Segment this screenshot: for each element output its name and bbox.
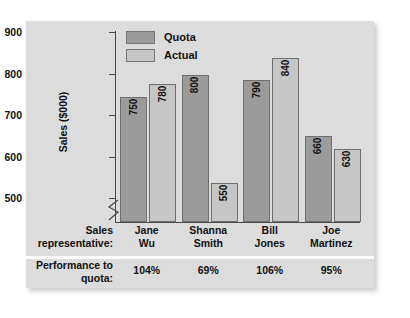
name-first-1: Shanna — [178, 224, 240, 237]
table-cell-percentage-2: 106% — [239, 259, 301, 286]
plot-area: 900 800 700 600 500 Sales ($000) Quota A… — [26, 21, 374, 221]
bar-value-actual-joe-martinez: 630 — [342, 151, 352, 168]
bar-quota-shanna-smith: 800 — [182, 75, 209, 222]
bar-actual-shanna-smith: 550 — [211, 183, 238, 222]
y-tick-label-900: 900 — [0, 27, 22, 38]
bar-value-quota-jane-wu: 750 — [129, 99, 139, 116]
bar-group-bill-jones: 790 840 — [239, 21, 301, 222]
bar-quota-joe-martinez: 660 — [305, 136, 332, 222]
name-first-3: Joe — [301, 224, 363, 237]
table-cell-name-1: Shanna Smith — [178, 224, 240, 256]
bar-value-actual-bill-jones: 840 — [281, 60, 291, 77]
bar-value-quota-joe-martinez: 660 — [313, 138, 323, 155]
table-cell-percentage-3: 95% — [301, 259, 363, 286]
data-table: Sales representative: Jane Wu Shanna Smi… — [26, 224, 374, 288]
bar-value-actual-shanna-smith: 550 — [219, 185, 229, 202]
table-cell-name-0: Jane Wu — [116, 224, 178, 256]
name-last-0: Wu — [116, 237, 178, 250]
name-last-3: Martinez — [301, 237, 363, 250]
y-axis-title: Sales ($000) — [57, 67, 69, 177]
name-last-2: Jones — [239, 237, 301, 250]
bar-actual-joe-martinez: 630 — [334, 149, 361, 222]
bar-actual-jane-wu: 780 — [149, 84, 176, 222]
row-header-pct-line1: Performance to — [26, 259, 113, 272]
y-tick-mark-700 — [109, 115, 115, 116]
y-tick-mark-900 — [109, 32, 115, 33]
row-header-performance-to-quota: Performance to quota: — [26, 259, 116, 286]
table-cell-name-2: Bill Jones — [239, 224, 301, 256]
row-header-line1: Sales — [26, 224, 113, 237]
table-cell-percentage-1: 69% — [178, 259, 240, 286]
bar-quota-jane-wu: 750 — [120, 97, 147, 222]
y-tick-label-700: 700 — [0, 110, 22, 121]
table-cell-name-3: Joe Martinez — [301, 224, 363, 256]
bar-value-quota-shanna-smith: 800 — [190, 77, 200, 94]
name-last-1: Smith — [178, 237, 240, 250]
name-first-0: Jane — [116, 224, 178, 237]
bar-group-jane-wu: 750 780 — [116, 21, 178, 222]
table-row-performance: Performance to quota: 104% 69% 106% 95% — [26, 259, 374, 286]
bar-quota-bill-jones: 790 — [243, 80, 270, 222]
bar-group-shanna-smith: 800 550 — [178, 21, 240, 222]
chart-panel: 900 800 700 600 500 Sales ($000) Quota A… — [26, 21, 374, 288]
y-tick-mark-600 — [109, 157, 115, 158]
row-header-line2: representative: — [26, 237, 113, 250]
table-row-names: Sales representative: Jane Wu Shanna Smi… — [26, 224, 374, 256]
row-header-pct-line2: quota: — [26, 272, 113, 285]
table-cell-percentage-0: 104% — [116, 259, 178, 286]
y-tick-label-800: 800 — [0, 69, 22, 80]
name-first-2: Bill — [239, 224, 301, 237]
row-header-sales-representative: Sales representative: — [26, 224, 116, 256]
y-tick-mark-800 — [109, 74, 115, 75]
bar-value-quota-bill-jones: 790 — [252, 82, 262, 99]
y-tick-label-500: 500 — [0, 193, 22, 204]
bars-layer: 750 780 800 550 790 840 — [116, 21, 361, 223]
bar-actual-bill-jones: 840 — [272, 58, 299, 222]
bar-value-actual-jane-wu: 780 — [158, 86, 168, 103]
bar-group-joe-martinez: 660 630 — [301, 21, 363, 222]
y-tick-label-600: 600 — [0, 152, 22, 163]
